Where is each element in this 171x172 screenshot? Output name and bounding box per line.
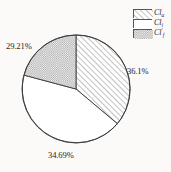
legend-label-cl-a: Cla (154, 8, 164, 18)
legend-label-cl-i-base: Cl (154, 18, 162, 27)
slice-label-36: 36.1% (127, 66, 148, 76)
legend-item-cl-i: Cli (133, 18, 171, 28)
legend-swatch-stippled (133, 29, 152, 38)
legend-label-cl-a-base: Cl (154, 8, 162, 17)
legend-label-cl-f: Cl'f (154, 28, 164, 38)
legend-label-cl-f-base: Cl (154, 28, 162, 37)
legend-label-cl-f-sub: f (163, 32, 165, 38)
legend-item-cl-f: Cl'f (133, 28, 171, 38)
slice-label-34: 34.69% (48, 150, 74, 160)
pie-chart (21, 34, 131, 144)
slice-label-29: 29.21% (6, 41, 32, 51)
legend-swatch-white (133, 19, 152, 28)
legend: Cla Cli Cl'f (133, 8, 171, 38)
legend-swatch-hatched (133, 9, 152, 18)
pie-svg (21, 34, 131, 144)
legend-item-cl-a: Cla (133, 8, 171, 18)
legend-label-cl-a-sub: a (162, 12, 165, 18)
pie-chart-figure: 29.21% 36.1% 34.69% Cla Cli (0, 0, 171, 172)
